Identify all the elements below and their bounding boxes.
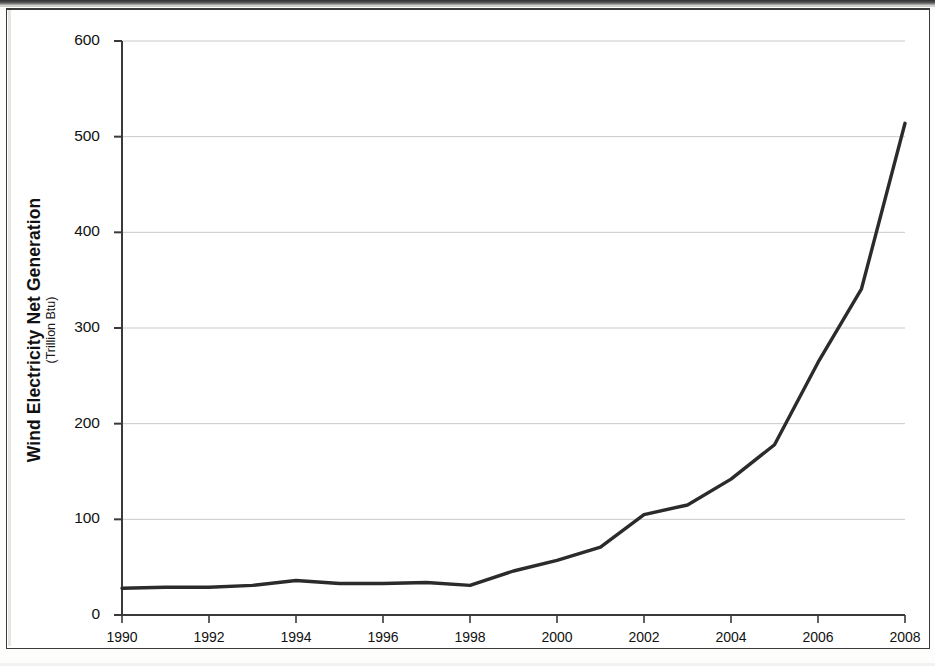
x-tick-label: 1996: [353, 629, 413, 645]
y-tick-label: 200: [48, 414, 100, 432]
y-tick-label: 400: [48, 222, 100, 240]
y-tick-label: 500: [48, 127, 100, 145]
y-tick-label: 600: [48, 31, 100, 49]
y-tick-label: 100: [48, 509, 100, 527]
x-tick-label: 2000: [527, 629, 587, 645]
x-tick-label: 1992: [179, 629, 239, 645]
y-axis-tick-marks: [114, 41, 122, 615]
plot-canvas: [0, 0, 935, 666]
x-tick-label: 1998: [440, 629, 500, 645]
x-tick-label: 2004: [701, 629, 761, 645]
x-tick-label: 1990: [92, 629, 152, 645]
x-tick-label: 2002: [614, 629, 674, 645]
x-axis-tick-marks: [122, 615, 905, 623]
gridlines: [122, 41, 905, 519]
x-tick-label: 2006: [788, 629, 848, 645]
y-tick-label: 0: [48, 605, 100, 623]
data-series-line: [122, 123, 905, 588]
x-tick-label: 2008: [875, 629, 935, 645]
chart-page: Wind Electricity Net Generation (Trillio…: [0, 0, 935, 666]
y-tick-label: 300: [48, 318, 100, 336]
x-tick-label: 1994: [266, 629, 326, 645]
